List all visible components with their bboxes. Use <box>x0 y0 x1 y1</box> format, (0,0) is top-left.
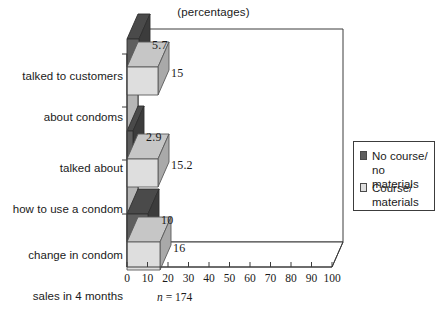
value-label-1-no-course: 2.9 <box>146 130 162 144</box>
value-label-0-course: 15 <box>171 66 183 80</box>
bar-2-course-front <box>127 242 160 270</box>
value-label-0-no-course: 5.7 <box>152 38 168 52</box>
x-tick-label-10: 100 <box>319 272 345 286</box>
category-label-2-line1: change in condom <box>28 249 123 263</box>
category-label-0-line1: talked to customers <box>22 70 123 84</box>
bar-0-course-front <box>127 67 158 95</box>
bar-1-course-front <box>127 159 158 187</box>
legend-item-course[interactable]: Course/ materials <box>360 181 419 209</box>
legend-label-course-line1: Course/ <box>372 182 412 194</box>
legend-swatch-course <box>360 183 367 192</box>
legend-label-course-line2: materials <box>372 195 419 209</box>
legend-label-no-course-line1: No course/ <box>372 150 428 162</box>
category-label-2: change in condom sales in 4 months <box>28 222 123 316</box>
sample-size-caption: n = 174 <box>157 291 192 305</box>
chart-title-text: (percentages) <box>177 6 249 18</box>
legend-swatch-no-course <box>360 151 367 160</box>
legend: No course/ no materials Course/ material… <box>353 141 435 211</box>
category-label-0-line2: about condoms <box>22 111 123 125</box>
value-label-1-course: 15.2 <box>171 158 193 172</box>
bar-chart-3d: (percentages) talked to customers about … <box>0 0 447 316</box>
chart-title: (percentages) <box>0 6 447 20</box>
category-label-1-line2: how to use a condom <box>13 203 123 217</box>
category-label-2-line2: sales in 4 months <box>28 290 123 304</box>
category-label-1-line1: talked about <box>13 162 123 176</box>
sample-size-value: = 174 <box>163 291 193 303</box>
value-label-2-no-course: 10 <box>161 213 173 227</box>
legend-label-course: Course/ materials <box>372 181 419 209</box>
value-label-2-course: 16 <box>173 241 185 255</box>
bar-group-0 <box>127 14 169 95</box>
